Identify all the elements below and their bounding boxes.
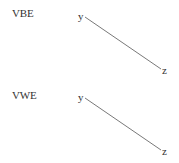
edge-y-z: [0, 82, 179, 163]
node-z: z: [162, 146, 167, 157]
diagram-vwe: VWE y z: [0, 82, 179, 163]
edge-y-z: [0, 0, 179, 81]
node-z: z: [162, 65, 167, 76]
diagram-vbe: VBE y z: [0, 0, 179, 81]
